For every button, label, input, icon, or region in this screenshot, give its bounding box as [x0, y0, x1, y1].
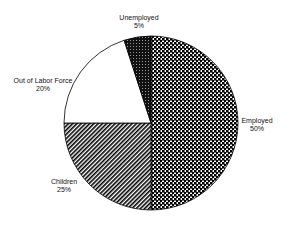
label-children: Children 25% — [51, 178, 77, 194]
pie-chart — [0, 0, 291, 228]
slice-employed — [151, 36, 238, 210]
pie-slices — [64, 36, 238, 210]
label-unemployed-pct: 5% — [119, 22, 158, 30]
label-olf-pct: 20% — [14, 85, 73, 93]
label-employed: Employed 50% — [241, 117, 272, 133]
label-olf-name: Out of Labor Force — [14, 77, 73, 85]
slice-children — [64, 123, 151, 210]
label-employed-pct: 50% — [241, 125, 272, 133]
label-out-of-labor-force: Out of Labor Force 20% — [14, 77, 73, 93]
label-employed-name: Employed — [241, 117, 272, 125]
label-children-name: Children — [51, 178, 77, 186]
label-unemployed-name: Unemployed — [119, 14, 158, 22]
label-children-pct: 25% — [51, 186, 77, 194]
label-unemployed: Unemployed 5% — [119, 14, 158, 30]
